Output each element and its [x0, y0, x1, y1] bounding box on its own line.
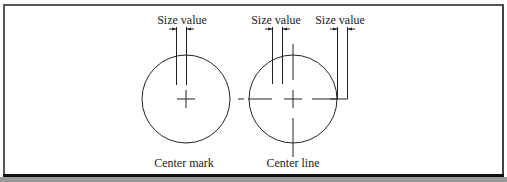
size-value-label-1: Size value — [157, 14, 207, 26]
size-value-extension-1 — [169, 27, 194, 85]
size-value-label-3: Size value — [315, 14, 365, 26]
size-value-label-2: Size value — [251, 14, 301, 26]
size-value-extension-3 — [330, 27, 355, 99]
diagram-canvas: Size value Size value Size value Center … — [0, 0, 507, 182]
center-mark-icon — [177, 90, 195, 108]
center-line-icon — [248, 44, 337, 157]
center-mark-label: Center mark — [154, 157, 214, 169]
dimension-diagram — [0, 0, 507, 182]
center-line-label: Center line — [267, 157, 320, 169]
